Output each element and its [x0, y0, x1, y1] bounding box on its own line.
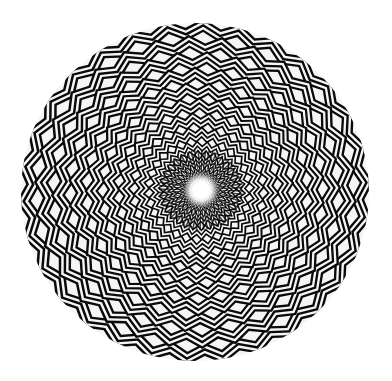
- op-art-zigzag-circle: [0, 0, 392, 381]
- center-core: [192, 181, 210, 199]
